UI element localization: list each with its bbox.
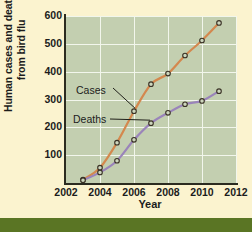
- x-axis-title: Year: [62, 198, 238, 210]
- data-point-marker: [115, 140, 120, 145]
- annotation-cases-label: Cases: [76, 84, 106, 96]
- data-point-marker: [98, 165, 103, 170]
- series-layer: [0, 0, 252, 218]
- data-point-marker: [183, 102, 188, 107]
- leader-line-cases: [113, 88, 135, 108]
- data-point-marker: [81, 178, 86, 183]
- data-point-marker: [217, 21, 222, 26]
- bottom-color-bar: [0, 218, 252, 232]
- plot-wrapper: Human cases and deaths from bird flu 100…: [0, 0, 252, 218]
- data-point-marker: [183, 53, 188, 58]
- data-point-marker: [132, 109, 137, 114]
- leader-line-deaths: [110, 119, 150, 120]
- data-point-marker: [98, 170, 103, 175]
- data-point-marker: [200, 38, 205, 43]
- annotation-deaths-label: Deaths: [73, 113, 106, 125]
- series-line-deaths: [83, 91, 219, 180]
- data-point-marker: [132, 138, 137, 143]
- bird-flu-chart-figure: Human cases and deaths from bird flu 100…: [0, 0, 252, 232]
- data-point-marker: [166, 111, 171, 116]
- data-point-marker: [217, 89, 222, 94]
- data-point-marker: [149, 82, 154, 87]
- data-point-marker: [166, 71, 171, 76]
- data-point-marker: [200, 99, 205, 104]
- data-point-marker: [149, 121, 154, 126]
- data-point-marker: [115, 158, 120, 163]
